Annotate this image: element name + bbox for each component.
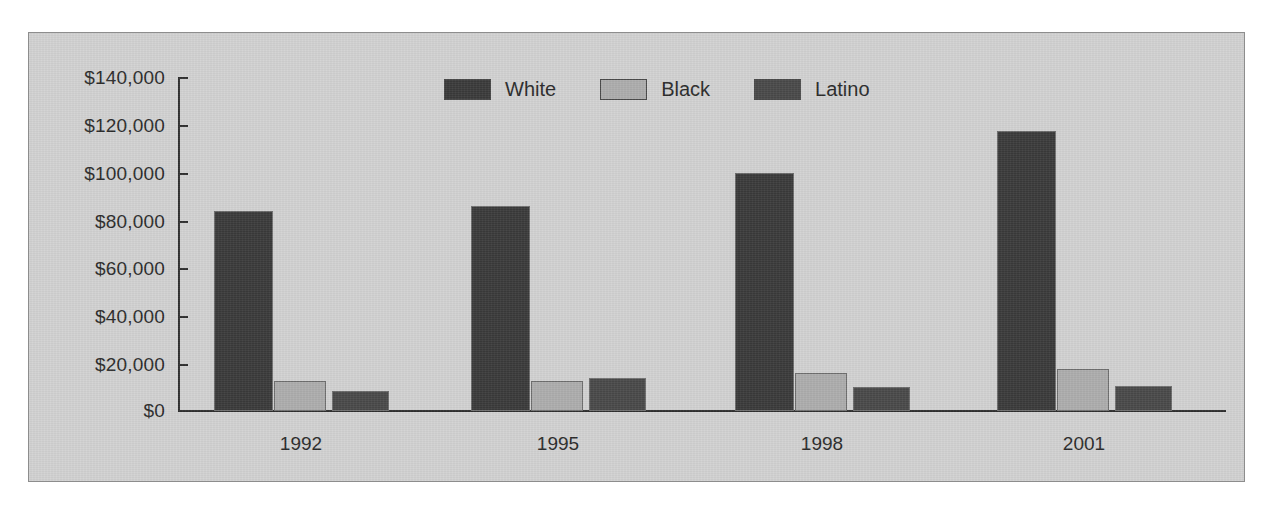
x-axis-label-1998: 1998 [801, 433, 843, 455]
y-tick-20000 [179, 364, 188, 366]
y-axis-label-80000: $80,000 [35, 211, 165, 233]
bar-white-1995 [471, 206, 530, 411]
y-tick-60000 [179, 268, 188, 270]
x-axis-label-2001: 2001 [1063, 433, 1105, 455]
y-axis-label-40000: $40,000 [35, 306, 165, 328]
legend-item-white: White [444, 78, 600, 101]
bar-black-1998 [795, 373, 847, 411]
bar-white-1992 [214, 211, 273, 411]
page-root: $140,000 $120,000 $100,000 $80,000 $60,0… [0, 0, 1271, 513]
bar-latino-1992 [332, 391, 389, 411]
x-axis-label-1992: 1992 [280, 433, 322, 455]
legend-label-black: Black [661, 78, 710, 101]
legend-swatch-black [600, 79, 647, 100]
legend-label-latino: Latino [815, 78, 870, 101]
legend-swatch-latino [754, 79, 801, 100]
y-tick-120000 [179, 125, 188, 127]
bar-black-1992 [274, 381, 326, 411]
chart-panel: $140,000 $120,000 $100,000 $80,000 $60,0… [28, 32, 1245, 482]
y-axis-label-20000: $20,000 [35, 354, 165, 376]
bar-black-1995 [531, 381, 583, 411]
y-tick-140000 [179, 77, 188, 79]
y-axis-label-60000: $60,000 [35, 258, 165, 280]
y-tick-40000 [179, 316, 188, 318]
bar-latino-1995 [589, 378, 646, 411]
legend-item-latino: Latino [754, 78, 870, 101]
bar-white-1998 [735, 173, 794, 411]
legend-swatch-white [444, 79, 491, 100]
legend-label-white: White [505, 78, 556, 101]
y-axis-label-100000: $100,000 [35, 163, 165, 185]
legend-item-black: Black [600, 78, 754, 101]
y-tick-80000 [179, 221, 188, 223]
bar-latino-1998 [853, 387, 910, 411]
x-axis-label-1995: 1995 [537, 433, 579, 455]
y-axis-label-0: $0 [35, 400, 165, 422]
plot-area: $140,000 $120,000 $100,000 $80,000 $60,0… [29, 33, 1246, 483]
y-axis-line [178, 77, 180, 412]
bar-black-2001 [1057, 369, 1109, 411]
y-axis-label-140000: $140,000 [35, 67, 165, 89]
y-tick-100000 [179, 173, 188, 175]
y-axis-label-120000: $120,000 [35, 115, 165, 137]
bar-latino-2001 [1115, 386, 1172, 411]
chart-legend: White Black Latino [444, 78, 870, 101]
bar-white-2001 [997, 131, 1056, 411]
